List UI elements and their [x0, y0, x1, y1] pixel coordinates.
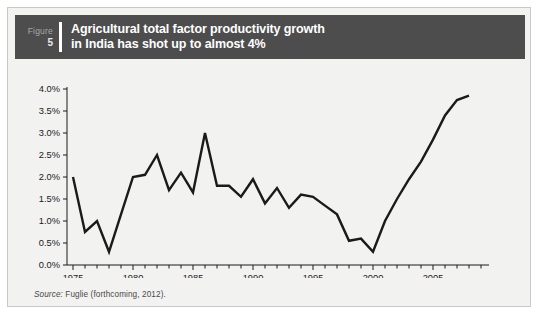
- data-series-line: [73, 96, 469, 252]
- figure-number-tag: Figure 5: [15, 15, 59, 59]
- y-axis-tick-label: 1.5%: [39, 194, 60, 204]
- figure-panel: Figure 5 Agricultural total factor produ…: [7, 7, 531, 307]
- figure-label-word: Figure: [28, 26, 53, 36]
- x-axis-tick-label: 1985: [183, 273, 204, 278]
- y-axis-tick-label: 2.5%: [39, 150, 60, 160]
- figure-title-line-2: in India has shot up to almost 4%: [71, 37, 525, 53]
- x-axis-tick-label: 1980: [123, 273, 144, 278]
- figure-title-line-1: Agricultural total factor productivity g…: [71, 22, 525, 38]
- x-axis-tick-label: 1995: [303, 273, 324, 278]
- y-axis-tick-label: 3.0%: [39, 128, 60, 138]
- y-axis-tick-label: 4.0%: [39, 84, 60, 94]
- x-axis-tick-label: 1990: [243, 273, 264, 278]
- y-axis-tick-label: 0.5%: [39, 238, 60, 248]
- series-polyline: [73, 96, 469, 252]
- x-axis: 1975198019851990199520002005: [63, 265, 489, 278]
- x-axis-tick-label: 1975: [63, 273, 84, 278]
- figure-header-bar: Figure 5 Agricultural total factor produ…: [15, 15, 525, 59]
- chart-area: 0.0%0.5%1.0%1.5%2.0%2.5%3.0%3.5%4.0% 197…: [15, 63, 525, 278]
- y-axis-tick-label: 2.0%: [39, 172, 60, 182]
- figure-number: 5: [47, 36, 53, 49]
- y-axis-tick-label: 0.0%: [39, 260, 60, 270]
- y-axis-tick-label: 3.5%: [39, 106, 60, 116]
- line-chart: 0.0%0.5%1.0%1.5%2.0%2.5%3.0%3.5%4.0% 197…: [15, 63, 525, 278]
- y-axis-tick-label: 1.0%: [39, 216, 60, 226]
- figure-title: Agricultural total factor productivity g…: [62, 15, 525, 59]
- x-axis-tick-label: 2000: [363, 273, 384, 278]
- source-note: Source: Fuglie (forthcoming, 2012).: [34, 290, 166, 299]
- source-text: Fuglie (forthcoming, 2012).: [63, 290, 166, 299]
- x-axis-tick-label: 2005: [423, 273, 444, 278]
- y-axis: 0.0%0.5%1.0%1.5%2.0%2.5%3.0%3.5%4.0%: [39, 84, 67, 270]
- source-label: Source:: [34, 290, 63, 299]
